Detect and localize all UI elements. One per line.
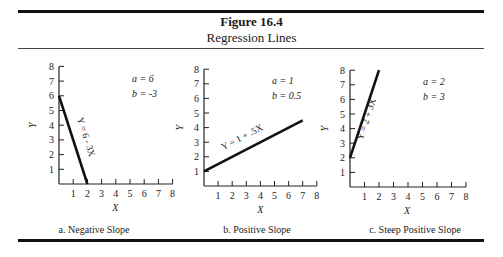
x-tick-label: 5: [272, 190, 277, 201]
x-tick-label: 5: [420, 191, 425, 202]
x-tick-label: 8: [464, 191, 469, 202]
x-tick-label: 4: [258, 190, 263, 201]
charts-canvas: 1234567812345678XYY = 6 - 3Xa = 6b = -31…: [0, 0, 503, 257]
y-tick-label: 7: [340, 79, 345, 90]
x-tick-label: 1: [362, 191, 367, 202]
y-tick-label: 8: [340, 65, 345, 76]
param-b-label: b = -3: [132, 88, 157, 99]
param-b-label: b = 0.5: [272, 90, 301, 101]
panel-b: 1234567812345678XYY = 1 + .5Xa = 1b = 0.…: [174, 64, 319, 215]
y-tick-label: 2: [194, 151, 199, 162]
y-tick-label: 1: [194, 166, 199, 177]
caption-b: b. Positive Slope: [177, 224, 337, 235]
x-tick-label: 5: [128, 188, 133, 199]
line-equation-label: Y = 2 + 3X: [355, 97, 378, 141]
y-tick-label: 4: [49, 120, 54, 131]
y-tick-label: 7: [49, 76, 54, 87]
x-tick-label: 6: [142, 188, 147, 199]
param-a-label: a = 6: [132, 73, 154, 84]
y-tick-label: 6: [49, 90, 54, 101]
x-tick-label: 6: [286, 190, 291, 201]
y-tick-label: 3: [49, 134, 54, 145]
y-tick-label: 2: [49, 149, 54, 160]
line-equation-label: Y = 1 + .5X: [219, 122, 264, 152]
panel-c: 1234567812345678XYY = 2 + 3Xa = 2b = 3: [319, 65, 469, 216]
x-tick-label: 3: [99, 188, 104, 199]
y-axis-label: Y: [319, 124, 330, 131]
y-tick-label: 1: [340, 167, 345, 178]
x-tick-label: 8: [170, 188, 175, 199]
y-tick-label: 6: [194, 93, 199, 104]
y-tick-label: 8: [194, 64, 199, 75]
y-tick-label: 5: [340, 109, 345, 120]
x-tick-label: 6: [435, 191, 440, 202]
x-axis-label: X: [256, 204, 264, 215]
y-axis-label: Y: [174, 123, 185, 130]
y-tick-label: 4: [194, 122, 199, 133]
param-a-label: a = 1: [272, 75, 294, 86]
x-tick-label: 7: [449, 191, 454, 202]
y-axis-label: Y: [27, 121, 38, 128]
x-tick-label: 3: [244, 190, 249, 201]
x-tick-label: 1: [216, 190, 221, 201]
y-tick-label: 6: [340, 94, 345, 105]
x-tick-label: 7: [156, 188, 161, 199]
x-tick-label: 8: [314, 190, 319, 201]
caption-c: c. Steep Positive Slope: [335, 224, 495, 235]
param-b-label: b = 3: [423, 91, 445, 102]
x-tick-label: 2: [85, 188, 90, 199]
x-tick-label: 3: [391, 191, 396, 202]
y-tick-label: 3: [194, 137, 199, 148]
x-tick-label: 1: [71, 188, 76, 199]
caption-a: a. Negative Slope: [14, 224, 174, 235]
y-tick-label: 7: [194, 78, 199, 89]
y-tick-label: 1: [49, 164, 54, 175]
y-tick-label: 5: [49, 105, 54, 116]
y-tick-label: 5: [194, 108, 199, 119]
x-tick-label: 4: [113, 188, 118, 199]
y-tick-label: 4: [340, 123, 345, 134]
bottom-rule: [18, 239, 484, 242]
y-tick-label: 2: [340, 152, 345, 163]
y-tick-label: 8: [49, 61, 54, 72]
x-tick-label: 2: [230, 190, 235, 201]
x-tick-label: 4: [406, 191, 411, 202]
panel-a: 1234567812345678XYY = 6 - 3Xa = 6b = -3: [27, 61, 175, 213]
x-axis-label: X: [403, 205, 411, 216]
x-axis-label: X: [111, 202, 119, 213]
y-tick-label: 3: [340, 138, 345, 149]
param-a-label: a = 2: [423, 76, 445, 87]
x-tick-label: 7: [300, 190, 305, 201]
x-tick-label: 2: [377, 191, 382, 202]
